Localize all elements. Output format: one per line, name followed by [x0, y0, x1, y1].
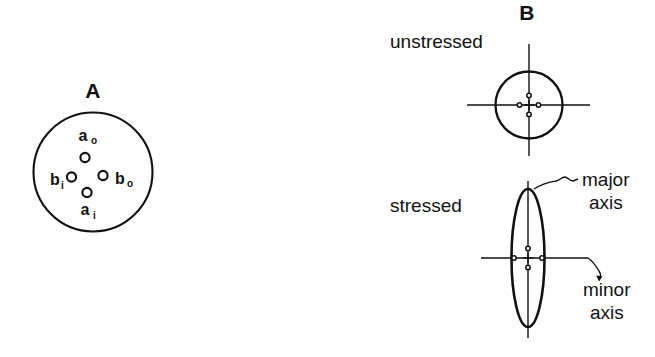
- hole-b-outer: [98, 171, 107, 180]
- major-axis-leader-line: [534, 177, 578, 189]
- stressed-hole-left: [512, 256, 516, 260]
- figure-root: A a o b i b o a i: [0, 0, 655, 357]
- hole-label-a-outer-sub: o: [91, 135, 97, 146]
- hole-a-inner: [82, 188, 91, 197]
- hole-label-b-inner: b i: [50, 171, 64, 191]
- stressed-diagram: stressed major axis: [390, 169, 631, 338]
- unstressed-label: unstressed: [390, 31, 483, 52]
- stressed-label: stressed: [390, 195, 462, 216]
- unstressed-hole-right: [536, 103, 540, 107]
- stressed-hole-right: [540, 256, 544, 260]
- hole-label-b-outer-sub: o: [127, 178, 133, 189]
- hole-label-a-inner: a i: [81, 201, 96, 221]
- panel-b-letter: B: [519, 1, 535, 24]
- hole-label-b-inner-base: b: [50, 171, 60, 188]
- major-axis-label-line1: major: [582, 169, 630, 190]
- hole-label-b-inner-sub: i: [61, 180, 64, 191]
- minor-axis-label-line1: minor: [583, 279, 631, 300]
- stressed-center-cross: [523, 253, 534, 264]
- stressed-hole-top: [526, 246, 530, 250]
- hole-a-outer: [80, 153, 89, 162]
- panel-a: A a o b i b o a i: [34, 79, 153, 232]
- figure-canvas: A a o b i b o a i: [0, 0, 655, 357]
- panel-a-letter: A: [85, 79, 101, 102]
- unstressed-diagram: unstressed: [390, 31, 590, 156]
- hole-label-a-inner-base: a: [81, 201, 90, 218]
- hole-label-b-outer: b o: [115, 170, 133, 189]
- hole-label-a-inner-sub: i: [93, 210, 96, 221]
- minor-axis-label-line2: axis: [590, 302, 624, 323]
- panel-b: B unstressed: [390, 1, 631, 338]
- hole-label-a-outer-base: a: [79, 127, 88, 144]
- unstressed-center-cross: [524, 100, 535, 111]
- major-axis-label-line2: axis: [589, 192, 623, 213]
- unstressed-hole-left: [517, 103, 521, 107]
- unstressed-hole-top: [527, 93, 531, 97]
- hole-label-b-outer-base: b: [115, 170, 125, 187]
- unstressed-hole-bottom: [527, 112, 531, 116]
- hole-b-inner: [67, 172, 76, 181]
- hole-label-a-outer: a o: [79, 127, 98, 146]
- stressed-hole-bottom: [526, 265, 530, 269]
